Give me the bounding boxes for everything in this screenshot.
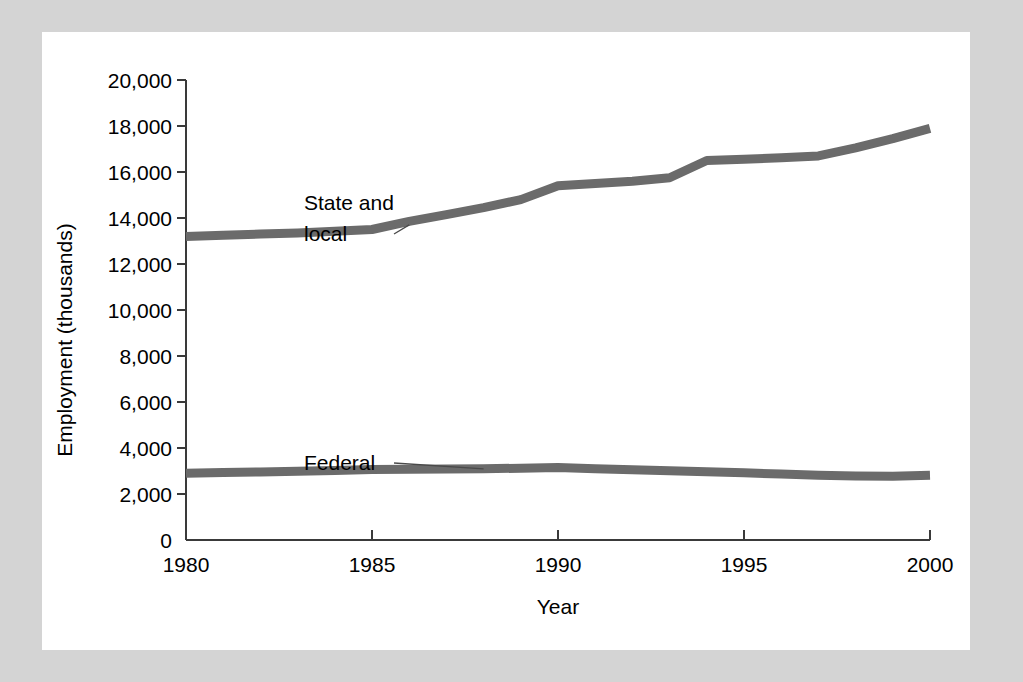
y-tick-label: 0 — [160, 529, 172, 552]
annotation-label-state-and-local-line1: State and — [304, 191, 394, 214]
y-tick-label: 6,000 — [119, 391, 172, 414]
annotation-label-federal: Federal — [304, 451, 375, 474]
chart-panel: Employment (thousands) 20,000 18,000 16,… — [42, 32, 970, 650]
y-tick-label: 18,000 — [108, 115, 172, 138]
y-tick-label: 14,000 — [108, 207, 172, 230]
y-tick-label: 20,000 — [108, 69, 172, 92]
y-tick-label: 4,000 — [119, 437, 172, 460]
series-line-state-and-local — [186, 128, 930, 236]
y-tick-marks — [177, 80, 186, 494]
y-tick-label: 16,000 — [108, 161, 172, 184]
line-chart: Employment (thousands) 20,000 18,000 16,… — [42, 32, 970, 650]
x-axis-title: Year — [537, 595, 579, 618]
y-tick-label: 12,000 — [108, 253, 172, 276]
x-tick-label: 2000 — [907, 553, 954, 576]
annotation-label-state-and-local-line2: local — [304, 222, 347, 245]
x-tick-labels: 1980 1985 1990 1995 2000 — [163, 553, 954, 576]
y-tick-label: 8,000 — [119, 345, 172, 368]
annotation-state-and-local: State and local — [304, 191, 409, 245]
x-tick-marks — [186, 530, 930, 540]
y-tick-label: 10,000 — [108, 299, 172, 322]
y-tick-label: 2,000 — [119, 483, 172, 506]
x-tick-label: 1985 — [349, 553, 396, 576]
y-tick-labels: 20,000 18,000 16,000 14,000 12,000 10,00… — [108, 69, 172, 552]
y-axis-title: Employment (thousands) — [53, 223, 76, 456]
x-tick-label: 1990 — [535, 553, 582, 576]
x-tick-label: 1980 — [163, 553, 210, 576]
x-tick-label: 1995 — [721, 553, 768, 576]
figure-frame: Employment (thousands) 20,000 18,000 16,… — [0, 0, 1023, 682]
series-line-federal — [186, 468, 930, 477]
